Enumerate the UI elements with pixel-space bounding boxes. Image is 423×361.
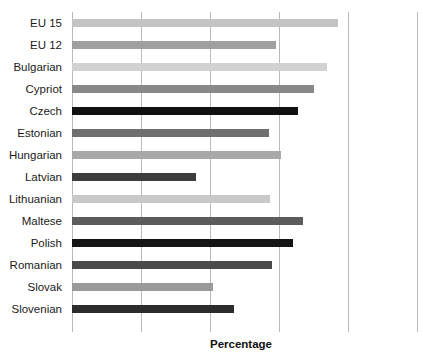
bar xyxy=(72,63,327,71)
category-label: Lithuanian xyxy=(0,188,62,210)
bar xyxy=(72,217,303,225)
category-label: Polish xyxy=(0,232,62,254)
bar-row xyxy=(72,166,417,188)
bar-row xyxy=(72,276,417,298)
category-label: Hungarian xyxy=(0,144,62,166)
bar xyxy=(72,107,298,115)
bar xyxy=(72,129,269,137)
bar-row xyxy=(72,78,417,100)
bar xyxy=(72,151,281,159)
bar-row xyxy=(72,210,417,232)
bar-row xyxy=(72,100,417,122)
bar xyxy=(72,195,270,203)
gridline-100 xyxy=(417,12,418,332)
category-label: Romanian xyxy=(0,254,62,276)
plot-area xyxy=(72,12,417,332)
category-label: EU 15 xyxy=(0,12,62,34)
bar xyxy=(72,85,314,93)
bar xyxy=(72,261,272,269)
category-label: Czech xyxy=(0,100,62,122)
bar-row xyxy=(72,254,417,276)
x-axis-title: Percentage xyxy=(195,338,287,350)
bar xyxy=(72,19,338,27)
category-label: Estonian xyxy=(0,122,62,144)
category-axis-labels: EU 15EU 12BulgarianCypriotCzechEstonianH… xyxy=(0,12,67,332)
bar-row xyxy=(72,232,417,254)
bar xyxy=(72,173,196,181)
bar-row xyxy=(72,12,417,34)
category-label: Cypriot xyxy=(0,78,62,100)
category-label: Maltese xyxy=(0,210,62,232)
bar-row xyxy=(72,34,417,56)
bar xyxy=(72,283,213,291)
category-label: EU 12 xyxy=(0,34,62,56)
bar xyxy=(72,305,234,313)
category-label: Bulgarian xyxy=(0,56,62,78)
category-label: Slovak xyxy=(0,276,62,298)
category-label: Slovenian xyxy=(0,298,62,320)
bar xyxy=(72,239,293,247)
bar xyxy=(72,41,276,49)
bar-row xyxy=(72,144,417,166)
bar-row xyxy=(72,56,417,78)
bar-chart: EU 15EU 12BulgarianCypriotCzechEstonianH… xyxy=(0,0,423,361)
bar-row xyxy=(72,122,417,144)
bar-row xyxy=(72,188,417,210)
bar-row xyxy=(72,298,417,320)
category-label: Latvian xyxy=(0,166,62,188)
